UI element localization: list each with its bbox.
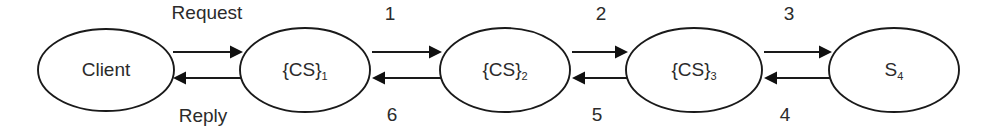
node-client[interactable]: Client: [38, 29, 174, 111]
arrowhead-icon: [429, 46, 442, 59]
edge-cs3-to-cs2: [572, 72, 628, 85]
edge-cs3-to-s4: [764, 46, 832, 59]
arrowhead-icon: [819, 46, 832, 59]
edge-label-client-to-cs1: Request: [172, 2, 243, 23]
edge-label-cs3-to-s4: 3: [784, 3, 795, 24]
node-label-base: {CS}: [282, 59, 321, 80]
edge-label-s4-to-cs3: 4: [780, 104, 791, 125]
edge-cs2-to-cs3: [572, 46, 628, 59]
node-cs2[interactable]: {CS}2: [440, 28, 570, 112]
node-label-subscript: 3: [710, 70, 716, 82]
edge-label-cs1-to-client: Reply: [179, 105, 228, 126]
nodes-layer: Client{CS}1{CS}2{CS}3S4: [38, 28, 959, 112]
edge-cs1-to-cs2: [372, 46, 442, 59]
arrowhead-icon: [173, 72, 186, 85]
edge-s4-to-cs3: [764, 72, 832, 85]
edge-client-to-cs1: [173, 46, 243, 59]
diagram-canvas: Client{CS}1{CS}2{CS}3S4 RequestReply1625…: [0, 0, 990, 134]
arrowhead-icon: [615, 46, 628, 59]
node-s4[interactable]: S4: [829, 28, 959, 112]
node-label-cs1: {CS}1: [282, 59, 327, 82]
node-label-subscript: 4: [897, 70, 903, 82]
node-label-base: {CS}: [671, 59, 710, 80]
node-label-subscript: 1: [321, 70, 327, 82]
node-cs1[interactable]: {CS}1: [240, 28, 370, 112]
edge-cs1-to-client: [173, 72, 243, 85]
edge-label-cs2-to-cs3: 2: [596, 3, 607, 24]
arrowhead-icon: [230, 46, 243, 59]
arrowhead-icon: [764, 72, 777, 85]
chain-diagram: Client{CS}1{CS}2{CS}3S4 RequestReply1625…: [0, 0, 990, 134]
node-label-subscript: 2: [521, 70, 527, 82]
edge-cs2-to-cs1: [372, 72, 442, 85]
node-label-client: Client: [82, 59, 131, 80]
node-cs3[interactable]: {CS}3: [626, 28, 762, 112]
node-label-cs2: {CS}2: [482, 59, 527, 82]
node-label-base: {CS}: [482, 59, 521, 80]
arrowhead-icon: [572, 72, 585, 85]
node-label-base: Client: [82, 59, 131, 80]
edge-label-cs3-to-cs2: 5: [592, 104, 603, 125]
edge-label-cs1-to-cs2: 1: [385, 3, 396, 24]
arrowhead-icon: [372, 72, 385, 85]
node-label-cs3: {CS}3: [671, 59, 716, 82]
node-label-base: S: [885, 59, 898, 80]
edge-label-cs2-to-cs1: 6: [387, 104, 398, 125]
